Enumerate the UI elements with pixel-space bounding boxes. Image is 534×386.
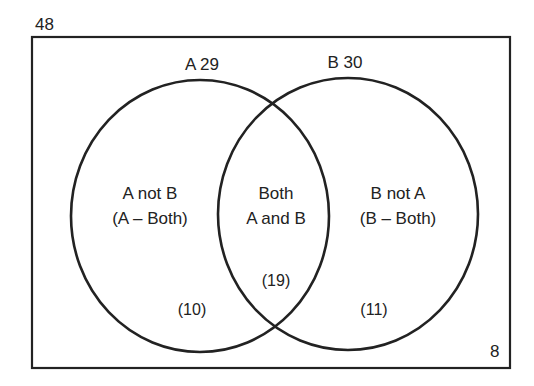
both-count: (19) (262, 272, 290, 289)
venn-diagram: 48 8 A 29 B 30 A not B (A – Both) (10) B… (0, 0, 534, 386)
a-only-count: (10) (178, 301, 206, 318)
both-subtitle: A and B (246, 209, 306, 228)
b-only-title: B not A (371, 184, 426, 203)
set-a-label: A 29 (185, 55, 219, 74)
a-only-subtitle: (A – Both) (112, 209, 188, 228)
set-b-label: B 30 (328, 53, 363, 72)
b-only-count: (11) (360, 301, 387, 318)
a-only-title: A not B (123, 184, 178, 203)
outside-count-label: 8 (490, 342, 499, 361)
universe-total-label: 48 (35, 15, 54, 34)
both-title: Both (259, 184, 294, 203)
b-only-subtitle: (B – Both) (360, 209, 437, 228)
